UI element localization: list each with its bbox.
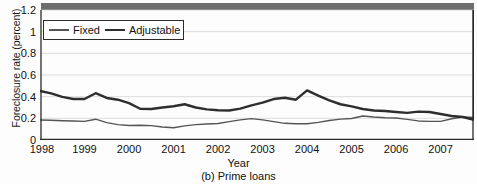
x-tick-label: 2007 bbox=[428, 143, 452, 155]
x-tick-label: 2005 bbox=[339, 143, 363, 155]
x-axis-title: Year bbox=[0, 157, 477, 169]
x-tick-label: 2006 bbox=[384, 143, 408, 155]
y-tick-label: 0.8 bbox=[2, 47, 36, 59]
line-swatch-fixed-icon bbox=[49, 29, 69, 31]
figure-caption: (b) Prime loans bbox=[0, 170, 477, 182]
y-tick-label: 0.4 bbox=[2, 91, 36, 103]
legend-entry-fixed: Fixed bbox=[49, 24, 100, 36]
legend-label-fixed: Fixed bbox=[73, 24, 100, 36]
y-tick-label: 1.2 bbox=[2, 4, 36, 16]
x-tick-label: 1999 bbox=[72, 143, 96, 155]
line-swatch-adjustable-icon bbox=[105, 29, 125, 32]
y-tick-label: 1 bbox=[2, 26, 36, 38]
legend-label-adjustable: Adjustable bbox=[129, 24, 180, 36]
figure-prime-loans: Foreclosure rate (percent) 00.20.40.60.8… bbox=[0, 0, 477, 184]
x-tick-label: 2001 bbox=[161, 143, 185, 155]
y-tick-label: 0.6 bbox=[2, 69, 36, 81]
x-tick-label: 2004 bbox=[295, 143, 319, 155]
x-tick-label: 1998 bbox=[30, 143, 54, 155]
y-tick-label: 0.2 bbox=[2, 112, 36, 124]
legend-entry-adjustable: Adjustable bbox=[105, 24, 180, 36]
chart-legend: Fixed Adjustable bbox=[43, 20, 184, 40]
x-tick-label: 2003 bbox=[250, 143, 274, 155]
x-tick-label: 2002 bbox=[206, 143, 230, 155]
top-banner-bar bbox=[41, 3, 474, 10]
x-tick-label: 2000 bbox=[117, 143, 141, 155]
